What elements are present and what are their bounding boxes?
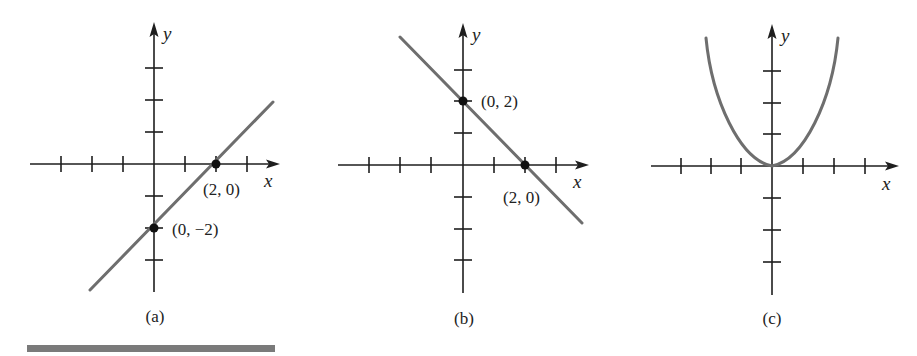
line-b (400, 37, 582, 223)
divider-bar (27, 345, 275, 352)
point-0-2 (459, 97, 468, 106)
panel-b: x y (0, 2) (2, 0) (b) (338, 23, 589, 328)
point-2-0 (212, 160, 221, 169)
point-label: (0, −2) (172, 220, 218, 239)
line-a (90, 102, 273, 290)
x-axis-label: x (881, 173, 891, 194)
x-axis-label: x (263, 170, 273, 191)
point-label: (0, 2) (481, 92, 518, 111)
y-axis-label: y (470, 24, 481, 45)
panel-label: (a) (146, 307, 165, 326)
panel-label: (b) (454, 309, 474, 328)
figure-canvas: x y (2, 0) (0, −2) (a) (0, 0, 917, 356)
figure: x y (2, 0) (0, −2) (a) (0, 0, 917, 356)
point-label: (2, 0) (503, 188, 540, 207)
x-axis-label: x (572, 171, 582, 192)
y-axis-label: y (161, 23, 172, 44)
panel-a: x y (2, 0) (0, −2) (a) (30, 22, 280, 326)
point-2-0 (521, 161, 530, 170)
panel-c: x y (c) (651, 24, 899, 328)
point-label: (2, 0) (203, 180, 240, 199)
panel-label: (c) (763, 309, 782, 328)
y-axis-label: y (779, 25, 790, 46)
point-0-neg2 (150, 224, 159, 233)
